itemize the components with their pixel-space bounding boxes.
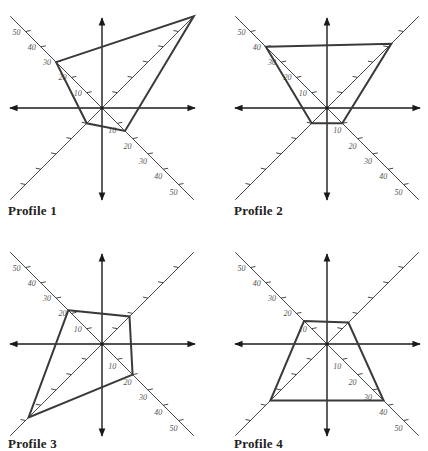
tick-label: 40 <box>154 408 162 417</box>
tick-mark <box>36 404 41 405</box>
tick-label: 50 <box>13 264 21 273</box>
tick-label: 10 <box>74 89 82 98</box>
tick-mark <box>246 184 251 185</box>
tick-label: 10 <box>299 89 307 98</box>
tick-mark <box>281 297 286 298</box>
tick-label: 30 <box>138 393 147 402</box>
tick-mark <box>312 92 317 93</box>
tick-mark <box>388 404 393 405</box>
tick-mark <box>26 267 31 268</box>
tick-label: 30 <box>363 157 372 166</box>
tick-mark <box>373 389 378 390</box>
tick-mark <box>251 267 256 268</box>
tick-label: 50 <box>238 264 246 273</box>
tick-mark <box>71 312 76 313</box>
tick-mark <box>246 420 251 421</box>
tick-mark <box>261 404 266 405</box>
tick-mark <box>66 138 71 139</box>
profile-1-chart: 10203040501020304050 <box>0 0 214 225</box>
tick-mark <box>296 312 301 313</box>
tick-mark <box>291 138 296 139</box>
tick-mark <box>71 76 76 77</box>
origin-point <box>100 342 103 345</box>
tick-label: 50 <box>170 188 178 197</box>
tick-mark <box>87 328 92 329</box>
tick-mark <box>399 31 404 32</box>
tick-label: 20 <box>349 142 357 151</box>
tick-mark <box>358 138 363 139</box>
tick-mark <box>383 46 388 47</box>
tick-label: 50 <box>238 28 246 37</box>
profile-3-chart: 10203040501020304050 <box>0 225 214 450</box>
tick-mark <box>41 282 46 283</box>
tick-mark <box>307 358 312 359</box>
tick-mark <box>383 282 388 283</box>
tick-mark <box>179 184 184 185</box>
tick-mark <box>112 328 117 329</box>
tick-mark <box>388 168 393 169</box>
tick-label: 40 <box>379 172 387 181</box>
tick-mark <box>87 92 92 93</box>
tick-label: 50 <box>170 424 178 433</box>
profile-2-panel: 10203040501020304050 Profile 2 <box>214 0 428 225</box>
profile-polygon <box>266 44 392 124</box>
profile-4-title: Profile 4 <box>234 436 283 451</box>
tick-mark <box>143 61 148 62</box>
tick-mark <box>163 404 168 405</box>
tick-label: 40 <box>154 172 162 181</box>
tick-mark <box>148 389 153 390</box>
tick-mark <box>404 184 409 185</box>
tick-mark <box>148 153 153 154</box>
tick-mark <box>276 389 281 390</box>
tick-label: 20 <box>283 309 291 318</box>
tick-label: 10 <box>333 126 341 135</box>
profile-2-chart: 10203040501020304050 <box>214 0 428 225</box>
tick-mark <box>56 297 61 298</box>
profile-polygon <box>56 16 194 131</box>
origin-point <box>100 106 103 109</box>
tick-mark <box>112 92 117 93</box>
tick-mark <box>368 297 373 298</box>
tick-mark <box>133 138 138 139</box>
tick-mark <box>82 358 87 359</box>
tick-mark <box>337 92 342 93</box>
tick-mark <box>251 31 256 32</box>
tick-mark <box>291 374 296 375</box>
tick-mark <box>41 46 46 47</box>
tick-label: 40 <box>253 279 261 288</box>
tick-mark <box>312 328 317 329</box>
tick-mark <box>296 76 301 77</box>
tick-mark <box>158 46 163 47</box>
tick-mark <box>353 76 358 77</box>
tick-mark <box>404 420 409 421</box>
tick-mark <box>117 358 122 359</box>
tick-label: 40 <box>253 43 261 52</box>
tick-label: 30 <box>42 58 51 67</box>
tick-mark <box>128 312 133 313</box>
tick-label: 40 <box>28 43 36 52</box>
tick-label: 10 <box>333 362 341 371</box>
tick-label: 30 <box>42 294 51 303</box>
tick-mark <box>143 297 148 298</box>
profile-1-panel: 10203040501020304050 Profile 1 <box>0 0 214 225</box>
profile-4-chart: 10203040501020304050 <box>214 225 428 450</box>
tick-mark <box>399 267 404 268</box>
tick-mark <box>51 153 56 154</box>
tick-mark <box>358 374 363 375</box>
tick-mark <box>117 122 122 123</box>
tick-mark <box>373 153 378 154</box>
origin-point <box>325 106 328 109</box>
tick-mark <box>163 168 168 169</box>
tick-mark <box>51 389 56 390</box>
origin-point <box>325 342 328 345</box>
tick-mark <box>128 76 133 77</box>
tick-mark <box>353 312 358 313</box>
tick-label: 30 <box>267 294 276 303</box>
tick-mark <box>342 358 347 359</box>
tick-label: 20 <box>349 378 357 387</box>
profile-3-title: Profile 3 <box>8 436 57 451</box>
profile-3-panel: 10203040501020304050 Profile 3 <box>0 225 214 450</box>
tick-label: 40 <box>28 279 36 288</box>
tick-label: 50 <box>13 28 21 37</box>
tick-label: 30 <box>138 157 147 166</box>
